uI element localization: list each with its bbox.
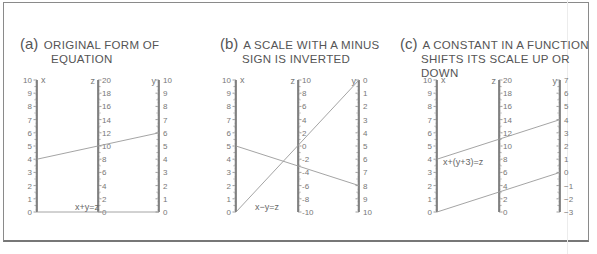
nomograph-canvas: 109876543210x20181614121086420z109876543… <box>0 0 597 254</box>
panel-c-x-label: 2 <box>428 182 433 191</box>
panel-b-z-label: 0 <box>302 142 307 151</box>
panel-b-z-label: 8 <box>302 89 307 98</box>
panel-c-z-name: z <box>492 76 497 86</box>
panel-a-x-label: 1 <box>28 195 33 204</box>
panel-a-z-label: 16 <box>102 102 111 111</box>
panel-c-y-label: 0 <box>564 168 569 177</box>
panel-b-y-label: 0 <box>363 76 368 85</box>
panel-b-z-label: -8 <box>302 195 310 204</box>
panel-a-x-label: 8 <box>28 102 33 111</box>
panel-a-z-label: 6 <box>102 168 107 177</box>
panel-a-x-label: 2 <box>28 182 33 191</box>
panel-a-y-label: 9 <box>163 89 168 98</box>
panel-a-z-label: 18 <box>102 89 111 98</box>
panel-a-z-label: 20 <box>102 76 111 85</box>
panel-c-z-label: 18 <box>503 89 512 98</box>
panel-b-y-label: 9 <box>363 195 368 204</box>
panel-a-y-label: 8 <box>163 102 168 111</box>
panel-c-equation: x+(y+3)=z <box>443 157 484 167</box>
panel-c-x-label: 8 <box>428 102 433 111</box>
panel-a-z-label: 2 <box>102 195 107 204</box>
panel-a-y-label: 2 <box>163 182 168 191</box>
panel-b-z-label: -10 <box>302 208 314 217</box>
panel-b-y-label: 6 <box>363 155 368 164</box>
panel-a-x-label: 9 <box>28 89 33 98</box>
panel-c-y-label: 7 <box>564 76 569 85</box>
panel-a-equation: x+y=z <box>75 202 100 212</box>
panel-c-x-label: 10 <box>423 76 432 85</box>
panel-c-x-label: 7 <box>428 116 433 125</box>
panel-a-x-label: 4 <box>28 155 33 164</box>
panel-b-z-label: 4 <box>302 116 307 125</box>
panel-c-x-label: 0 <box>428 208 433 217</box>
panel-c-z-label: 20 <box>503 76 512 85</box>
panel-b-x-label: 2 <box>227 182 232 191</box>
panel-b-x-label: 9 <box>227 89 232 98</box>
panel-b-x-label: 7 <box>227 116 232 125</box>
panel-a-z-label: 12 <box>102 129 111 138</box>
panel-a-y-label: 10 <box>163 76 172 85</box>
panel-a-y-label: 3 <box>163 168 168 177</box>
panel-a-y-label: 5 <box>163 142 168 151</box>
panel-c-z-label: 0 <box>503 208 508 217</box>
panel-c-x-label: 3 <box>428 168 433 177</box>
panel-a-z-name: z <box>91 76 96 86</box>
panel-b-x-label: 1 <box>227 195 232 204</box>
panel-a-x-name: x <box>41 75 46 85</box>
panel-b-x-label: 8 <box>227 102 232 111</box>
panel-a-y-label: 7 <box>163 116 168 125</box>
panel-a-y-label: 4 <box>163 155 168 164</box>
panel-b-x-label: 0 <box>227 208 232 217</box>
panel-a-y-name: y <box>152 76 157 86</box>
panel-b-x-label: 6 <box>227 129 232 138</box>
panel-b-y-label: 7 <box>363 168 368 177</box>
panel-b-z-label: -2 <box>302 155 310 164</box>
panel-b-z-label: -6 <box>302 182 310 191</box>
panel-a-z-label: 8 <box>102 155 107 164</box>
panel-b-y-label: 4 <box>363 129 368 138</box>
panel-c-y-label: −1 <box>564 182 574 191</box>
panel-c-x-label: 5 <box>428 142 433 151</box>
panel-b-x-label: 4 <box>227 155 232 164</box>
panel-c-y-name: y <box>553 76 558 86</box>
panel-a-x-label: 3 <box>28 168 33 177</box>
panel-b-z-label: 6 <box>302 102 307 111</box>
panel-c-y-label: 1 <box>564 155 569 164</box>
panel-c-x-label: 6 <box>428 129 433 138</box>
panel-a-z-label: 14 <box>102 116 111 125</box>
panel-c-y-label: 3 <box>564 129 569 138</box>
panel-c-x-label: 4 <box>428 155 433 164</box>
panel-b-y-label: 3 <box>363 116 368 125</box>
panel-a-x-label: 10 <box>23 76 32 85</box>
panel-b-x-label: 3 <box>227 168 232 177</box>
panel-c-x-label: 9 <box>428 89 433 98</box>
panel-c-z-label: 10 <box>503 142 512 151</box>
panel-a-x-label: 0 <box>28 208 33 217</box>
panel-b-x-label: 10 <box>222 76 231 85</box>
panel-b-y-name: y <box>352 76 357 86</box>
panel-a-z-label: 0 <box>102 208 107 217</box>
panel-c-x-label: 1 <box>428 195 433 204</box>
panel-b-z-name: z <box>291 76 296 86</box>
panel-c-x-name: x <box>441 75 446 85</box>
panel-c-z-label: 14 <box>503 116 512 125</box>
panel-c-y-label: 6 <box>564 89 569 98</box>
panel-c-y-label: 4 <box>564 116 569 125</box>
panel-c-z-label: 2 <box>503 195 508 204</box>
panel-a-y-label: 1 <box>163 195 168 204</box>
panel-b-z-label: 10 <box>302 76 311 85</box>
panel-a-y-label: 6 <box>163 129 168 138</box>
panel-c-y-label: −2 <box>564 195 574 204</box>
panel-b-y-label: 1 <box>363 89 368 98</box>
panel-a-y-label: 0 <box>163 208 168 217</box>
panel-b-x-name: x <box>240 75 245 85</box>
panel-a-x-label: 6 <box>28 129 33 138</box>
panel-b-x-label: 5 <box>227 142 232 151</box>
panel-a-x-label: 7 <box>28 116 33 125</box>
panel-c-z-label: 6 <box>503 168 508 177</box>
panel-b-y-label: 10 <box>363 208 372 217</box>
panel-c-z-label: 16 <box>503 102 512 111</box>
panel-a-x-label: 5 <box>28 142 33 151</box>
panel-b-y-label: 5 <box>363 142 368 151</box>
panel-c-y-label: 5 <box>564 102 569 111</box>
